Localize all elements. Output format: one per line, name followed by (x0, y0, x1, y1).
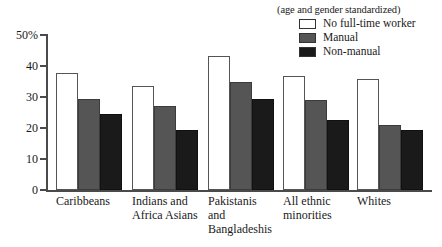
x-axis-category-label: All ethnic minorities (283, 194, 357, 222)
bar (357, 79, 379, 190)
y-axis-tick-label: 40 (0, 60, 38, 72)
y-axis-tick (40, 127, 46, 129)
bar (252, 99, 274, 190)
y-axis-tick-label: 10 (0, 153, 38, 165)
legend-item-no-full-time-worker: No full-time worker (299, 17, 442, 30)
bar (327, 120, 349, 190)
y-axis-tick-label: 0 (0, 184, 38, 196)
x-axis-category-label: Caribbeans (56, 194, 130, 208)
y-axis-tick (40, 158, 46, 160)
bar (305, 100, 327, 190)
bar (56, 73, 78, 190)
bar (379, 125, 401, 190)
bar (78, 99, 100, 190)
bar (283, 76, 305, 190)
y-axis-tick (40, 189, 46, 191)
bar (154, 106, 176, 190)
x-axis-category-label: Pakistanis and Bangladeshis (208, 194, 282, 236)
y-axis-tick (40, 96, 46, 98)
bar-chart: (age and gender standardized) No full-ti… (0, 0, 442, 247)
legend-note: (age and gender standardized) (277, 4, 442, 16)
legend-swatch-no-full-time-worker (299, 19, 316, 29)
bar (132, 86, 154, 190)
y-axis-tick (40, 34, 46, 36)
x-axis-category-label: Whites (357, 194, 431, 208)
y-axis-tick-label: 50% (0, 29, 38, 41)
x-axis-category-label: Indians and Africa Asians (132, 194, 206, 222)
bar (401, 130, 423, 190)
bar (230, 82, 252, 190)
y-axis-tick (40, 65, 46, 67)
legend-label-no-full-time-worker: No full-time worker (323, 17, 416, 30)
bar (208, 56, 230, 190)
y-axis-tick-label: 30 (0, 91, 38, 103)
x-axis-line (46, 190, 432, 192)
y-axis-tick-label: 20 (0, 122, 38, 134)
bar (176, 130, 198, 190)
plot-area (47, 35, 432, 190)
bar (100, 114, 122, 190)
